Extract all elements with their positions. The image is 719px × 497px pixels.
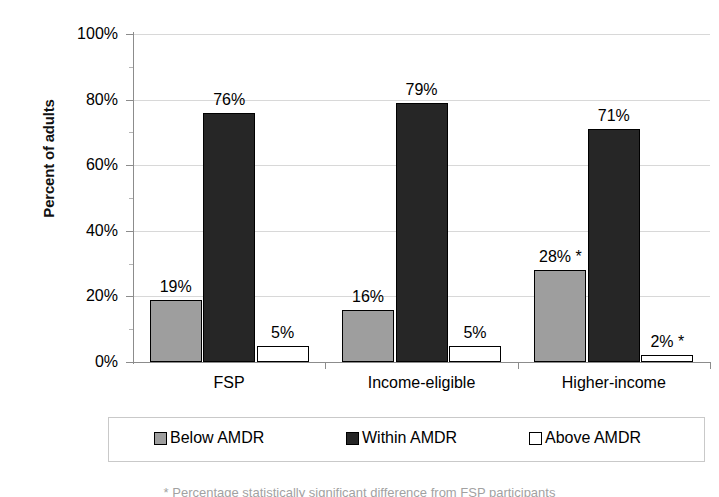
y-axis-tick-label: 40%: [8, 222, 118, 240]
bar: [342, 310, 394, 362]
x-axis-category-label: FSP: [214, 374, 245, 392]
y-axis-line: [133, 32, 134, 364]
x-axis-separator: [710, 362, 711, 369]
gridline: [133, 34, 710, 35]
y-axis-tick-label: 20%: [8, 287, 118, 305]
bar-value-label: 79%: [405, 81, 437, 99]
legend-swatch-icon: [529, 432, 542, 445]
bar: [588, 129, 640, 362]
x-axis-category-label: Income-eligible: [368, 374, 476, 392]
legend-item-0[interactable]: Below AMDR: [154, 429, 264, 447]
x-axis-separator: [518, 362, 519, 369]
y-axis-tick-label: 80%: [8, 91, 118, 109]
bar-value-label: 19%: [160, 278, 192, 296]
legend-item-2[interactable]: Above AMDR: [529, 429, 641, 447]
bar: [534, 270, 586, 362]
bar-value-label: 71%: [598, 107, 630, 125]
y-axis-tick-label: 0%: [8, 353, 118, 371]
bar: [150, 300, 202, 362]
bar-value-label: 5%: [271, 324, 294, 342]
legend-item-1[interactable]: Within AMDR: [346, 429, 457, 447]
bar: [203, 113, 255, 362]
bar-value-label: 16%: [352, 288, 384, 306]
x-axis-separator: [325, 362, 326, 369]
bar-value-label: 28% *: [539, 248, 582, 266]
legend: Below AMDRWithin AMDRAbove AMDR: [108, 417, 705, 462]
legend-item-label: Above AMDR: [545, 429, 641, 447]
bar: [257, 346, 309, 362]
x-axis-category-label: Higher-income: [562, 374, 666, 392]
bar: [641, 355, 693, 362]
y-axis-tick-label: 100%: [8, 25, 118, 43]
bar-chart: Percent of adults 0%20%40%60%80%100% 19%…: [0, 0, 719, 497]
footnote-cutoff: * Percentage statistically significant d…: [0, 486, 719, 497]
bar: [449, 346, 501, 362]
x-axis-line: [133, 362, 711, 363]
bar-value-label: 76%: [213, 91, 245, 109]
y-axis-tick-label: 60%: [8, 156, 118, 174]
legend-item-label: Below AMDR: [170, 429, 264, 447]
bar: [396, 103, 448, 362]
bar-value-label: 5%: [463, 324, 486, 342]
legend-swatch-icon: [346, 432, 359, 445]
legend-swatch-icon: [154, 432, 167, 445]
legend-item-label: Within AMDR: [362, 429, 457, 447]
bar-value-label: 2% *: [650, 333, 684, 351]
